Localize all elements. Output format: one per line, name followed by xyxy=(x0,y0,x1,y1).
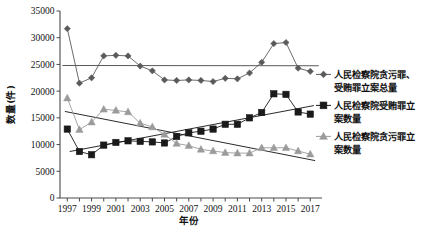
data-point-marker xyxy=(101,53,107,59)
data-point-marker xyxy=(64,26,70,32)
y-axis-tick-label: 30000 xyxy=(31,33,55,43)
chart-container: 0500010000150002000025000300003500019971… xyxy=(0,0,445,235)
data-point-marker xyxy=(320,71,327,78)
data-point-marker xyxy=(198,128,204,134)
data-point-marker xyxy=(173,140,180,147)
legend-label: 受贿罪立案总量 xyxy=(334,82,397,93)
data-point-marker xyxy=(259,109,265,115)
data-point-marker xyxy=(246,115,252,121)
data-point-marker xyxy=(270,144,277,151)
data-point-marker xyxy=(137,138,143,144)
data-point-marker xyxy=(283,91,289,97)
data-point-marker xyxy=(210,126,216,132)
data-point-marker xyxy=(64,126,70,132)
data-point-marker xyxy=(258,144,265,151)
x-axis-tick-label: 2007 xyxy=(179,204,198,214)
data-point-marker xyxy=(210,78,216,84)
x-axis-tick-label: 2017 xyxy=(301,204,320,214)
data-point-marker xyxy=(320,102,327,109)
data-point-marker xyxy=(64,94,71,101)
y-axis-tick-label: 35000 xyxy=(31,6,55,16)
data-point-marker xyxy=(234,76,240,82)
data-point-marker xyxy=(88,75,94,81)
data-point-marker xyxy=(271,91,277,97)
data-point-marker xyxy=(307,68,313,74)
data-point-marker xyxy=(307,111,313,117)
data-point-marker xyxy=(113,52,119,58)
y-axis-tick-label: 0 xyxy=(50,193,55,203)
legend-label: 人民检察院贪污罪、 xyxy=(334,69,415,80)
x-axis-tick-label: 2005 xyxy=(155,204,174,214)
chart-axes xyxy=(60,11,322,198)
y-axis-tick-label: 25000 xyxy=(31,60,55,70)
data-point-marker xyxy=(101,142,107,148)
data-point-marker xyxy=(100,105,107,112)
data-point-marker xyxy=(186,130,192,136)
legend-label: 案数量 xyxy=(333,113,361,124)
data-point-marker xyxy=(125,138,131,144)
data-point-marker xyxy=(76,80,82,86)
data-point-marker xyxy=(88,152,94,158)
data-point-marker xyxy=(283,39,289,45)
x-axis-title: 年份 xyxy=(179,215,199,226)
data-point-marker xyxy=(271,40,277,46)
data-point-marker xyxy=(222,121,228,127)
data-point-marker xyxy=(320,132,328,139)
x-axis-tick-label: 2009 xyxy=(204,204,223,214)
y-axis-tick-label: 20000 xyxy=(31,87,55,97)
data-point-marker xyxy=(149,139,155,145)
data-point-marker xyxy=(234,121,240,127)
x-axis-tick-label: 2013 xyxy=(252,204,271,214)
legend-label: 人民检察院受贿罪立 xyxy=(334,100,415,111)
series-1 xyxy=(64,26,313,87)
data-point-marker xyxy=(186,77,192,83)
data-point-marker xyxy=(222,75,228,81)
x-axis-tick-label: 2001 xyxy=(106,204,125,214)
data-point-marker xyxy=(174,77,180,83)
data-point-marker xyxy=(113,139,119,145)
x-axis-tick-label: 2015 xyxy=(276,204,295,214)
legend-label: 案数量 xyxy=(333,144,361,155)
x-axis-tick-label: 1999 xyxy=(82,204,101,214)
data-point-marker xyxy=(161,140,167,146)
data-point-marker xyxy=(295,109,301,115)
data-point-marker xyxy=(76,126,83,133)
data-point-marker xyxy=(173,133,179,139)
y-axis-tick-label: 10000 xyxy=(31,140,55,150)
legend-label: 人民检察院贪污罪立 xyxy=(334,131,415,142)
x-axis-tick-label: 2003 xyxy=(131,204,150,214)
legend-item-1[interactable]: 人民检察院贪污罪、受贿罪立案总量 xyxy=(316,69,415,93)
data-point-marker xyxy=(282,144,289,151)
legend-item-3[interactable]: 人民检察院贪污罪立案数量 xyxy=(316,131,415,155)
x-axis-tick-label: 1997 xyxy=(58,204,77,214)
y-axis-title: 数量(件) xyxy=(5,85,16,125)
data-point-marker xyxy=(246,149,253,156)
line-chart: 0500010000150002000025000300003500019971… xyxy=(0,0,445,235)
y-axis-tick-label: 5000 xyxy=(36,167,55,177)
legend-item-2[interactable]: 人民检察院受贿罪立案数量 xyxy=(316,100,415,124)
data-point-marker xyxy=(76,148,82,154)
y-axis-tick-label: 15000 xyxy=(31,113,55,123)
x-axis-tick-label: 2011 xyxy=(228,204,247,214)
data-point-marker xyxy=(198,77,204,83)
